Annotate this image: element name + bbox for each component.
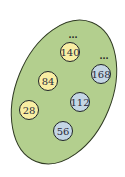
node-112: 112 [70,93,89,112]
set-diagram: ... ... 140 168 84 112 28 56 [0,0,125,177]
diagram-canvas: ... ... 140 168 84 112 28 56 [0,0,125,177]
node-label: 56 [57,126,70,137]
ellipsis-mark-right: ... [99,52,108,61]
node-140: 140 [60,43,79,62]
node-56: 56 [54,122,73,141]
node-84: 84 [39,72,58,91]
node-label: 112 [70,97,89,108]
node-28: 28 [20,101,39,120]
node-label: 84 [42,76,55,87]
node-label: 168 [91,69,110,80]
ellipsis-mark-top: ... [68,31,77,40]
node-168: 168 [91,65,110,84]
node-label: 140 [60,47,79,58]
node-label: 28 [23,105,36,116]
set-ellipse [0,4,125,177]
